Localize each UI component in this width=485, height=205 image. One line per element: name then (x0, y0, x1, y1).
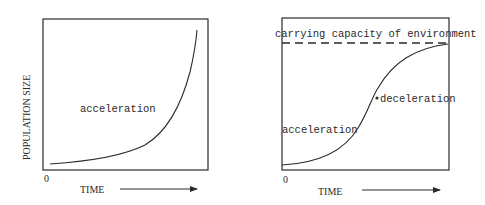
right-acceleration-label: acceleration (282, 124, 358, 136)
left-exponential-curve (50, 30, 197, 164)
right-chart-logistic: carrying capacity of environment deceler… (275, 18, 477, 197)
left-x-axis-label: TIME (80, 184, 104, 195)
deceleration-label: deceleration (380, 93, 456, 105)
population-growth-diagram: acceleration POPULATION SIZE 0 TIME carr… (0, 0, 485, 205)
right-x-axis-label: TIME (318, 186, 342, 197)
left-curve-label: acceleration (80, 103, 156, 115)
left-y-axis-label: POPULATION SIZE (21, 75, 32, 160)
left-origin-label: 0 (44, 173, 49, 184)
right-origin-label: 0 (283, 174, 288, 185)
inflection-point-dot (375, 96, 378, 99)
carrying-capacity-label: carrying capacity of environment (275, 28, 477, 40)
left-chart-exponential: acceleration POPULATION SIZE 0 TIME (21, 19, 208, 195)
